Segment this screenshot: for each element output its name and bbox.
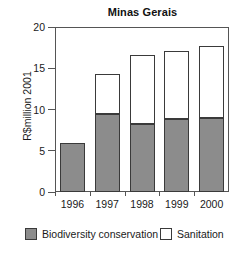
bar-segment-1999-biodiversity [164,119,189,192]
y-axis-tick [48,150,55,151]
bar-segment-1997-biodiversity [95,114,120,192]
legend-item-sanitation: Sanitation [160,226,224,242]
bar-segment-1999-sanitation [164,51,189,119]
x-axis-tick [194,192,195,196]
bar-1997 [95,27,120,192]
y-axis-tick-label: 20 [5,22,45,32]
bar-segment-2000-sanitation [199,46,224,118]
bar-segment-2000-biodiversity [199,118,224,192]
chart-title: Minas Gerais [55,6,230,18]
bar-segment-1998-sanitation [130,55,155,124]
y-axis-tick [48,109,55,110]
bar-1996 [60,27,85,192]
bar-segment-1996-biodiversity [60,143,85,193]
y-axis-tick [48,68,55,69]
x-axis-tick [55,192,56,196]
y-axis-tick [48,27,55,28]
x-axis-tick-label: 2000 [192,198,232,210]
bar-segment-1997-sanitation [95,74,120,114]
bar-segment-1998-biodiversity [130,124,155,192]
legend-swatch-icon [25,228,37,240]
x-axis-tick [90,192,91,196]
y-axis-tick-label: 10 [5,105,45,115]
y-axis-tick-label: 15 [5,63,45,73]
bar-2000 [199,27,224,192]
chart-container: Minas Gerais R$million 2001 05101520 199… [0,0,249,255]
legend-item-biodiversity: Biodiversity conservation [25,226,158,242]
y-axis-tick-label: 5 [5,146,45,156]
x-axis-tick [125,192,126,196]
legend-label: Sanitation [177,228,224,240]
y-axis-tick [48,192,55,193]
bar-1999 [164,27,189,192]
x-axis-tick [159,192,160,196]
chart-legend: Biodiversity conservationSanitation [0,226,249,250]
bar-1998 [130,27,155,192]
legend-label: Biodiversity conservation [42,228,158,240]
legend-swatch-icon [160,228,172,240]
y-axis-tick-label: 0 [5,187,45,197]
